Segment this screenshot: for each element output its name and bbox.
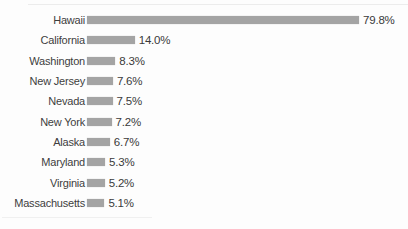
value-label: 79.8% (363, 14, 395, 26)
category-label: Massachusetts (0, 197, 87, 209)
bar-row: Massachusetts5.1% (0, 193, 408, 213)
value-label: 6.7% (114, 136, 139, 148)
bar-row: Nevada7.5% (0, 91, 408, 111)
bar-rows: Hawaii79.8%California14.0%Washington8.3%… (0, 10, 408, 213)
category-label: California (0, 34, 87, 46)
bar (87, 36, 135, 44)
bar-row: Virginia5.2% (0, 172, 408, 192)
bottom-rule (2, 217, 152, 218)
bar-row: Maryland5.3% (0, 152, 408, 172)
bar (87, 158, 105, 166)
bar-row: Hawaii79.8% (0, 10, 408, 30)
value-label: 7.5% (117, 95, 142, 107)
bar (87, 16, 359, 24)
value-label: 5.1% (108, 197, 133, 209)
bar (87, 97, 113, 105)
category-label: New Jersey (0, 75, 87, 87)
value-label: 14.0% (139, 34, 171, 46)
bar-row: Washington8.3% (0, 51, 408, 71)
bar-row: Alaska6.7% (0, 132, 408, 152)
category-label: Hawaii (0, 14, 87, 26)
top-rule (28, 4, 408, 5)
bar (87, 179, 105, 187)
category-label: Maryland (0, 156, 87, 168)
category-label: Nevada (0, 95, 87, 107)
bar-row: New York7.2% (0, 111, 408, 131)
value-label: 5.2% (109, 177, 134, 189)
category-label: Virginia (0, 177, 87, 189)
value-label: 8.3% (119, 55, 144, 67)
bar (87, 118, 112, 126)
bar (87, 199, 104, 207)
value-label: 5.3% (109, 156, 134, 168)
category-label: Alaska (0, 136, 87, 148)
bar-chart: Hawaii79.8%California14.0%Washington8.3%… (0, 0, 408, 229)
bar-row: New Jersey7.6% (0, 71, 408, 91)
bar-row: California14.0% (0, 30, 408, 50)
category-label: New York (0, 116, 87, 128)
bar (87, 138, 110, 146)
value-label: 7.6% (117, 75, 142, 87)
bar (87, 57, 115, 65)
category-label: Washington (0, 55, 87, 67)
value-label: 7.2% (116, 116, 141, 128)
bar (87, 77, 113, 85)
